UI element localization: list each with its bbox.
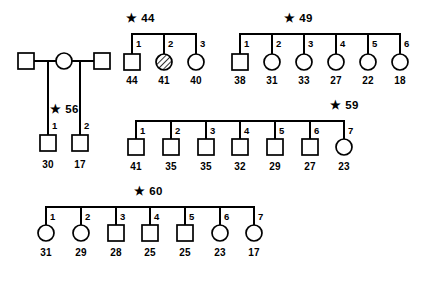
family-59-child-4-index: 4 xyxy=(244,125,250,136)
family-60-child-5-age: 25 xyxy=(179,247,191,258)
family-60-child-7-age: 17 xyxy=(248,247,260,258)
family-60-child-6-circle xyxy=(212,225,228,241)
family-60-child-4-square xyxy=(142,225,158,241)
pedigree-chart: ★ 56 1 2 30 17 ★ 44 1 2 3 44 41 40 xyxy=(0,0,422,304)
family-49-child-3-age: 33 xyxy=(298,75,310,86)
family-49-group: ★ 49 1 2 3 4 5 6 38 31 33 27 22 xyxy=(232,12,409,86)
family-60-child-5-square xyxy=(177,225,193,241)
family-59-child-7-index: 7 xyxy=(348,125,353,136)
family-59-child-1-index: 1 xyxy=(140,125,146,136)
family-60-child-2-age: 29 xyxy=(75,247,87,258)
family-44-child-3-index: 3 xyxy=(200,38,205,49)
family-44-child-2-age: 41 xyxy=(158,75,170,86)
pedigree-canvas: ★ 56 1 2 30 17 ★ 44 1 2 3 44 41 40 xyxy=(0,0,422,304)
family-60-child-2-index: 2 xyxy=(85,211,90,222)
family-60-group: ★ 60 1 2 3 4 5 6 7 31 29 28 xyxy=(38,185,263,258)
family-49-child-1-index: 1 xyxy=(244,38,250,49)
family-60-child-4-index: 4 xyxy=(154,211,160,222)
family-44-child-2-affected-circle xyxy=(156,54,172,70)
family-60-child-7-index: 7 xyxy=(258,211,263,222)
family-56-child-2-square xyxy=(72,135,88,151)
family-59-child-5-square xyxy=(267,139,283,155)
family-60-child-1-age: 31 xyxy=(40,247,52,258)
family-44-child-3-age: 40 xyxy=(190,75,202,86)
family-44-child-3-circle xyxy=(188,54,204,70)
family-59-child-5-age: 29 xyxy=(269,161,281,172)
family-49-child-4-circle xyxy=(328,54,344,70)
family-59-child-2-age: 35 xyxy=(165,161,177,172)
family-56-child-1-square xyxy=(40,135,56,151)
family-49-child-3-index: 3 xyxy=(308,38,313,49)
family-59-child-2-index: 2 xyxy=(175,125,180,136)
family-44-child-1-age: 44 xyxy=(126,75,138,86)
family-59-child-3-index: 3 xyxy=(210,125,215,136)
family-59-child-6-square xyxy=(302,139,318,155)
family-59-child-7-circle xyxy=(336,139,352,155)
family-59-child-1-square xyxy=(128,139,144,155)
family-59-child-3-age: 35 xyxy=(200,161,212,172)
family-59-child-1-age: 41 xyxy=(130,161,142,172)
family-56-child-1-index: 1 xyxy=(52,120,58,131)
family-49-child-1-age: 38 xyxy=(234,75,246,86)
family-56-label: ★ 56 xyxy=(50,103,79,115)
family-49-child-3-circle xyxy=(296,54,312,70)
founder-generation xyxy=(18,53,110,135)
family-44-child-2-index: 2 xyxy=(168,38,173,49)
family-59-child-4-age: 32 xyxy=(234,161,246,172)
family-60-child-6-age: 23 xyxy=(214,247,226,258)
family-59-child-6-index: 6 xyxy=(314,125,319,136)
family-59-child-2-square xyxy=(163,139,179,155)
family-60-child-3-square xyxy=(108,225,124,241)
family-59-group: ★ 59 1 2 3 4 5 6 7 41 35 35 xyxy=(128,99,359,172)
family-60-child-1-index: 1 xyxy=(50,211,56,222)
family-60-child-7-circle xyxy=(246,225,262,241)
family-56-child-2-age: 17 xyxy=(74,159,86,170)
family-59-label: ★ 59 xyxy=(330,99,359,111)
family-44-child-1-square xyxy=(124,54,140,70)
family-60-label: ★ 60 xyxy=(134,185,163,197)
family-56-child-2-index: 2 xyxy=(84,120,89,131)
family-44-child-1-index: 1 xyxy=(136,38,142,49)
family-49-child-5-age: 22 xyxy=(362,75,374,86)
family-59-child-6-age: 27 xyxy=(304,161,316,172)
family-59-child-3-square xyxy=(198,139,214,155)
family-44-label: ★ 44 xyxy=(126,12,155,24)
family-56-child-1-age: 30 xyxy=(42,159,54,170)
family-60-child-3-index: 3 xyxy=(120,211,125,222)
family-49-child-4-age: 27 xyxy=(330,75,342,86)
family-49-child-6-index: 6 xyxy=(404,38,409,49)
family-49-child-2-index: 2 xyxy=(276,38,281,49)
founder-mother-circle xyxy=(56,53,72,69)
family-44-group: ★ 44 1 2 3 44 41 40 xyxy=(124,12,205,86)
founder-father-right-square xyxy=(94,53,110,69)
family-60-child-2-circle xyxy=(73,225,89,241)
family-49-child-6-age: 18 xyxy=(394,75,406,86)
family-49-child-6-circle xyxy=(392,54,408,70)
family-49-child-5-index: 5 xyxy=(372,38,378,49)
family-60-child-6-index: 6 xyxy=(224,211,229,222)
family-49-child-1-square xyxy=(232,54,248,70)
family-59-child-7-age: 23 xyxy=(338,161,350,172)
family-49-label: ★ 49 xyxy=(284,12,313,24)
family-49-child-2-circle xyxy=(264,54,280,70)
family-60-child-3-age: 28 xyxy=(110,247,122,258)
family-60-child-5-index: 5 xyxy=(189,211,195,222)
family-49-child-2-age: 31 xyxy=(266,75,278,86)
family-60-child-4-age: 25 xyxy=(144,247,156,258)
family-59-child-4-square xyxy=(232,139,248,155)
family-49-child-5-circle xyxy=(360,54,376,70)
family-59-child-5-index: 5 xyxy=(279,125,285,136)
founder-father-left-square xyxy=(18,53,34,69)
family-49-child-4-index: 4 xyxy=(340,38,346,49)
family-60-child-1-circle xyxy=(38,225,54,241)
